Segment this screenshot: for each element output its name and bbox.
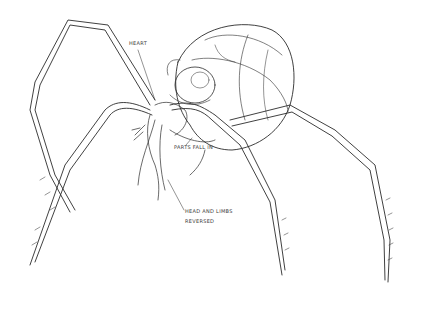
legs <box>30 20 393 282</box>
annotation-head-limbs-line1: HEAD AND LIMBS <box>185 208 233 215</box>
annotation-mouth-parts: PARTS FALL IN <box>174 144 213 151</box>
annotation-head-limbs-line2: REVERSED <box>185 218 214 225</box>
spider-sketch <box>0 0 424 310</box>
annotation-leaders <box>138 50 192 210</box>
cephalothorax <box>167 60 215 105</box>
annotation-heart: HEART <box>129 40 147 47</box>
mouthparts <box>132 102 215 200</box>
